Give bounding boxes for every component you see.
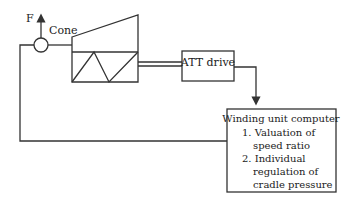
force-sensor-circle (34, 38, 48, 52)
winding-control-diagram: F Cone ATT drive Winding unit computer 1… (0, 0, 357, 200)
att-drive-label: ATT drive (180, 56, 235, 69)
computer-line-3: 2. Individual (242, 153, 306, 164)
computer-line-1: 1. Valuation of (242, 127, 316, 138)
computer-line-5: cradle pressure (253, 179, 333, 190)
drive-to-computer-line (234, 67, 256, 101)
computer-title: Winding unit computer (222, 113, 340, 124)
traverse-zigzag (72, 52, 138, 82)
force-label: F (26, 12, 34, 25)
computer-line-2: speed ratio (253, 140, 310, 151)
computer-line-4: regulation of (253, 166, 320, 177)
cone-label: Cone (49, 24, 78, 37)
cone-package-shape (72, 15, 138, 82)
